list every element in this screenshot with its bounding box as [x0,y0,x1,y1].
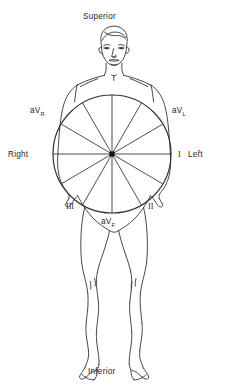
label-avf-subscript: F [112,222,115,228]
label-lead-1: I [178,151,181,159]
label-lead-avr: aVR [30,107,45,117]
neck-and-shoulders [77,63,151,86]
anatomical-figure-illustration [0,0,229,386]
label-avl-subscript: L [183,111,186,117]
label-left: Left [188,151,203,159]
label-lead-3: III [66,203,74,211]
arms-outline [58,85,171,207]
label-avl-prefix: aV [172,106,183,115]
diagram-page: Superior Inferior Right Left aVR aVL aVF… [0,0,229,386]
label-avr-prefix: aV [30,106,41,115]
label-superior: Superior [83,13,116,21]
axis-origin-marker [110,152,115,157]
label-lead-avf: aVF [101,218,115,228]
torso-outline [75,85,154,102]
label-lead-avl: aVL [172,107,186,117]
label-avf-prefix: aV [101,217,112,226]
label-avr-subscript: R [41,111,45,117]
label-inferior: Inferior [88,368,115,376]
label-lead-2: II [148,203,153,211]
label-right: Right [8,151,28,159]
